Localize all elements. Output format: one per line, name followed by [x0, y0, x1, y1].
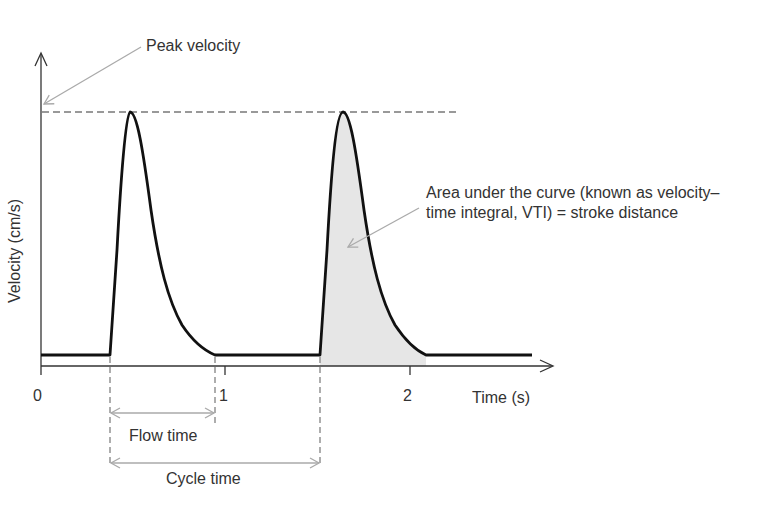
x-tick-label-2: 2: [403, 386, 412, 405]
vti-label-line1: Area under the curve (known as velocity–: [426, 183, 719, 202]
waveform-diagram: [0, 0, 765, 521]
flow-time-label: Flow time: [129, 426, 197, 445]
x-tick-label-1: 1: [219, 386, 228, 405]
velocity-waveform: [41, 112, 532, 355]
peak-velocity-pointer: [44, 47, 141, 104]
cycle-time-label: Cycle time: [166, 469, 241, 488]
x-axis-label: Time (s): [472, 388, 530, 407]
vti-label-line2: time integral, VTI) = stroke distance: [426, 203, 678, 222]
y-axis-label: Velocity (cm/s): [6, 199, 24, 303]
x-tick-label-0: 0: [33, 386, 42, 405]
vti-shaded-area: [320, 112, 426, 366]
peak-velocity-label: Peak velocity: [146, 36, 240, 55]
